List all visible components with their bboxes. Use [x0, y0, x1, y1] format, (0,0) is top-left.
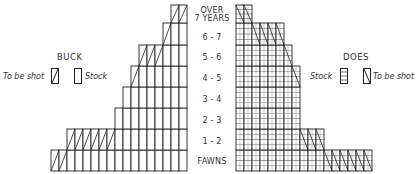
deer-population-pyramid	[0, 0, 420, 174]
pyramid-cell	[115, 129, 123, 150]
pyramid-cell	[163, 87, 171, 108]
pyramid-cell	[163, 66, 171, 87]
age-label-6-7: 6 - 7	[192, 34, 232, 42]
does-stock-swatch	[340, 68, 348, 84]
pyramid-cell	[123, 87, 131, 108]
pyramid-cell	[163, 45, 171, 66]
pyramid-cell	[163, 129, 171, 150]
pyramid-cell	[139, 108, 147, 129]
pyramid-cell	[99, 150, 107, 171]
pyramid-cell	[179, 108, 187, 129]
pyramid-cell	[115, 108, 123, 129]
pyramid-cell	[147, 66, 155, 87]
pyramid-cell	[115, 150, 123, 171]
pyramid-cell	[139, 66, 147, 87]
pyramid-cell	[131, 150, 139, 171]
buck-legend-to-be-shot-label: To be shot	[3, 72, 44, 81]
pyramid-cell	[155, 66, 163, 87]
does-legend-title: DOES	[343, 52, 369, 62]
pyramid-cell	[139, 150, 147, 171]
pyramid-cell	[131, 129, 139, 150]
pyramid-cell	[131, 108, 139, 129]
pyramid-cell	[139, 87, 147, 108]
pyramid-cell	[171, 87, 179, 108]
pyramid-cell	[179, 23, 187, 45]
pyramid-cell	[123, 129, 131, 150]
buck-to-be-shot-swatch	[51, 68, 59, 84]
pyramid-cell	[67, 150, 75, 171]
pyramid-cell	[179, 66, 187, 87]
pyramid-cell	[147, 129, 155, 150]
pyramid-cell	[123, 108, 131, 129]
pyramid-cell	[131, 87, 139, 108]
pyramid-cell	[179, 45, 187, 66]
pyramid-cell	[75, 150, 83, 171]
pyramid-cell	[147, 150, 155, 171]
pyramid-cell	[107, 150, 115, 171]
age-label-3-4: 3 - 4	[192, 96, 232, 104]
pyramid-cell	[123, 150, 131, 171]
buck-legend-stock-label: Stock	[85, 72, 107, 81]
pyramid-cell	[171, 108, 179, 129]
pyramid-cell	[171, 23, 179, 45]
does-legend-stock-label: Stock	[310, 72, 332, 81]
age-label-4-5: 4 - 5	[192, 75, 232, 83]
buck-legend-title: BUCK	[57, 52, 83, 62]
pyramid-cell	[139, 129, 147, 150]
pyramid-cell	[155, 129, 163, 150]
pyramid-cell	[147, 87, 155, 108]
pyramid-cell	[179, 150, 187, 171]
does-legend-to-be-shot-label: To be shot	[373, 72, 414, 81]
pyramid-cell	[155, 108, 163, 129]
age-label-5-6: 5 - 6	[192, 54, 232, 62]
pyramid-cell	[163, 150, 171, 171]
pyramid-cell	[171, 66, 179, 87]
age-label-fawns: FAWNS	[192, 158, 232, 166]
age-label-7-years: 7 YEARS	[192, 15, 232, 23]
pyramid-cell	[147, 108, 155, 129]
pyramid-cell	[179, 129, 187, 150]
pyramid-cell	[171, 150, 179, 171]
pyramid-cell	[155, 150, 163, 171]
pyramid-cell	[83, 150, 91, 171]
age-label-2-3: 2 - 3	[192, 117, 232, 125]
buck-stock-swatch	[74, 68, 82, 84]
pyramid-cell	[155, 87, 163, 108]
pyramid-cell	[171, 129, 179, 150]
pyramid-cell	[171, 45, 179, 66]
pyramid-cell	[91, 150, 99, 171]
pyramid-cell	[163, 108, 171, 129]
age-label-1-2: 1 - 2	[192, 138, 232, 146]
does-to-be-shot-swatch	[363, 68, 371, 84]
pyramid-cell	[179, 87, 187, 108]
